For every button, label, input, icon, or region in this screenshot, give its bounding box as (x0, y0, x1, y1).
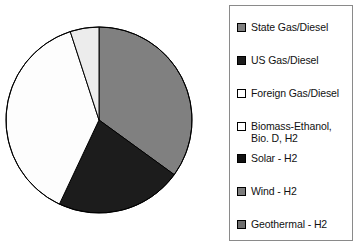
legend-item[interactable]: Geothermal - H2 (237, 218, 353, 230)
legend-item-label: State Gas/Diesel (251, 21, 328, 33)
legend-item[interactable]: US Gas/Diesel (237, 54, 353, 66)
pie-chart-area (0, 0, 226, 248)
legend-swatch-icon (237, 122, 246, 131)
legend-item-label: Foreign Gas/Diesel (251, 87, 339, 99)
legend-swatch-icon (237, 187, 246, 196)
legend-item-label: US Gas/Diesel (251, 54, 319, 66)
legend-item-label: Solar - H2 (251, 152, 297, 164)
legend-item[interactable]: Biomass-Ethanol, Bio. D, H2 (237, 120, 353, 144)
legend-item[interactable]: Wind - H2 (237, 185, 353, 197)
legend-swatch-icon (237, 154, 246, 163)
chart-legend: State Gas/DieselUS Gas/DieselForeign Gas… (229, 5, 353, 241)
legend-swatch-icon (237, 89, 246, 98)
legend-item-label: Biomass-Ethanol, Bio. D, H2 (251, 120, 332, 144)
legend-item[interactable]: Solar - H2 (237, 152, 353, 164)
pie-slice-group (6, 27, 192, 213)
pie-chart-graphic (0, 0, 226, 248)
legend-swatch-icon (237, 220, 246, 229)
legend-item[interactable]: Foreign Gas/Diesel (237, 87, 353, 99)
legend-swatch-icon (237, 56, 246, 65)
legend-item-label: Geothermal - H2 (251, 218, 327, 230)
legend-item-label: Wind - H2 (251, 185, 297, 197)
legend-item[interactable]: State Gas/Diesel (237, 21, 353, 33)
legend-swatch-icon (237, 23, 246, 32)
